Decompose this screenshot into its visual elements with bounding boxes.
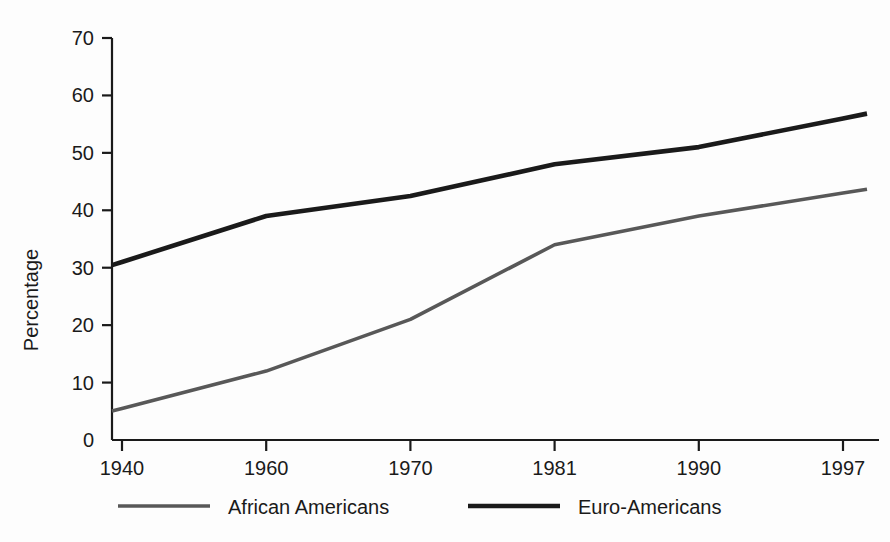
x-tick-label: 1940 [100, 457, 145, 479]
legend-label-african-americans: African Americans [228, 496, 389, 518]
y-tick-label: 20 [72, 314, 94, 336]
x-tick-label: 1997 [821, 457, 866, 479]
y-tick-label: 10 [72, 372, 94, 394]
series-line-euro-americans [112, 114, 867, 266]
chart-legend: African AmericansEuro-Americans [118, 496, 721, 518]
series-line-african-americans [112, 189, 867, 411]
x-tick-label: 1990 [677, 457, 722, 479]
y-tick-label: 60 [72, 84, 94, 106]
series-lines [112, 114, 867, 411]
legend-label-euro-americans: Euro-Americans [578, 496, 721, 518]
y-tick-label: 30 [72, 257, 94, 279]
x-tick-label: 1960 [244, 457, 289, 479]
x-tick-label: 1981 [532, 457, 577, 479]
y-tick-label: 0 [83, 429, 94, 451]
axis-tick-marks [102, 38, 843, 451]
y-tick-labels: 010203040506070 [72, 27, 94, 451]
y-tick-label: 50 [72, 142, 94, 164]
y-tick-label: 40 [72, 199, 94, 221]
x-tick-labels: 194019601970198119901997 [100, 457, 866, 479]
line-chart: Percentage 010203040506070 1940196019701… [0, 0, 890, 542]
y-axis-title: Percentage [20, 249, 42, 351]
x-tick-label: 1970 [388, 457, 433, 479]
y-tick-label: 70 [72, 27, 94, 49]
chart-figure: Percentage 010203040506070 1940196019701… [0, 0, 890, 542]
